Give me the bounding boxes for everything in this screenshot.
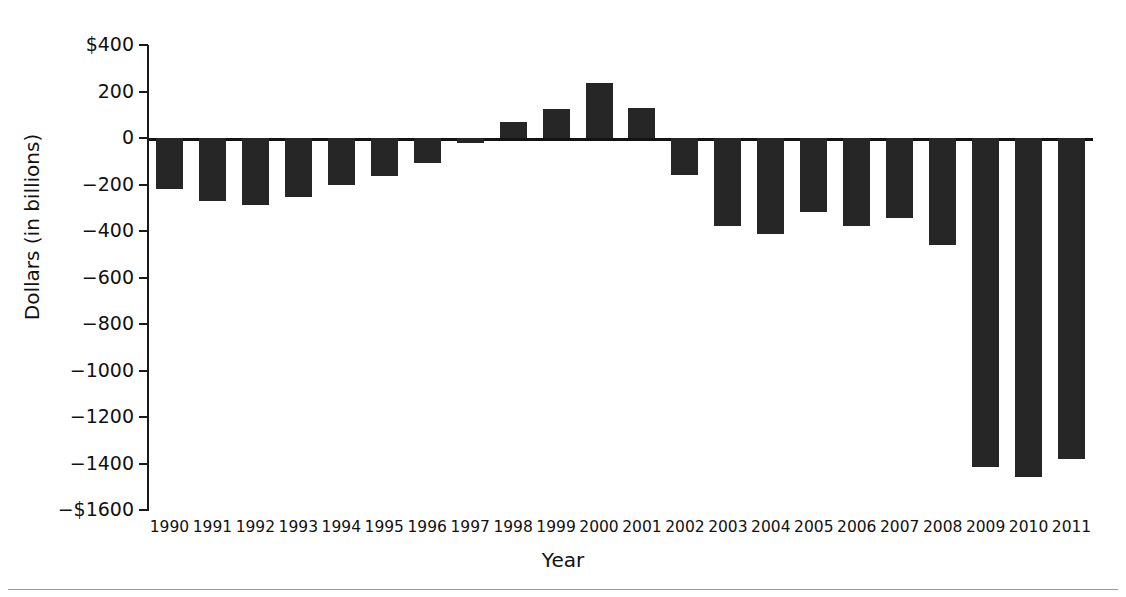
y-tick-mark [139,277,148,279]
bar [457,138,484,143]
bar [886,138,913,218]
y-tick-mark [139,509,148,511]
y-tick-mark [139,463,148,465]
y-tick-mark [139,370,148,372]
bar [285,138,312,197]
bar [543,109,570,138]
y-tick-label: −200 [82,173,134,195]
bar [757,138,784,234]
y-axis-title: Dollars (in billions) [20,27,44,427]
bar [242,138,269,205]
y-tick-label: −1200 [70,405,134,427]
bar [371,138,398,176]
bar [156,138,183,189]
y-tick-label: −800 [82,312,134,334]
bar [800,138,827,212]
y-tick-mark [139,230,148,232]
y-tick-mark [139,184,148,186]
x-axis-title: Year [0,548,1126,572]
bar [328,138,355,185]
bar [500,122,527,138]
bar [199,138,226,201]
bar [843,138,870,226]
footer-divider [8,589,1118,590]
plot-area [148,45,1093,510]
y-tick-label: −1000 [70,359,134,381]
y-tick-mark [139,91,148,93]
y-tick-label: −$1600 [58,498,134,520]
figure: Dollars (in billions) $4002000−200−400−6… [0,0,1126,597]
y-tick-mark [139,137,148,139]
x-tick-label: 2011 [1047,518,1097,536]
bar [671,138,698,175]
bar [1058,138,1085,459]
y-tick-label: −600 [82,266,134,288]
y-tick-label: $400 [86,33,134,55]
bar [972,138,999,467]
bar [586,83,613,138]
bar [1015,138,1042,477]
y-tick-label: −400 [82,219,134,241]
bar [714,138,741,226]
y-tick-mark [139,416,148,418]
y-tick-label: −1400 [70,452,134,474]
y-tick-mark [139,44,148,46]
bar [628,108,655,138]
y-tick-label: 200 [98,80,134,102]
y-tick-label: 0 [122,126,134,148]
bar [414,138,441,163]
bar [929,138,956,245]
y-tick-mark [139,323,148,325]
